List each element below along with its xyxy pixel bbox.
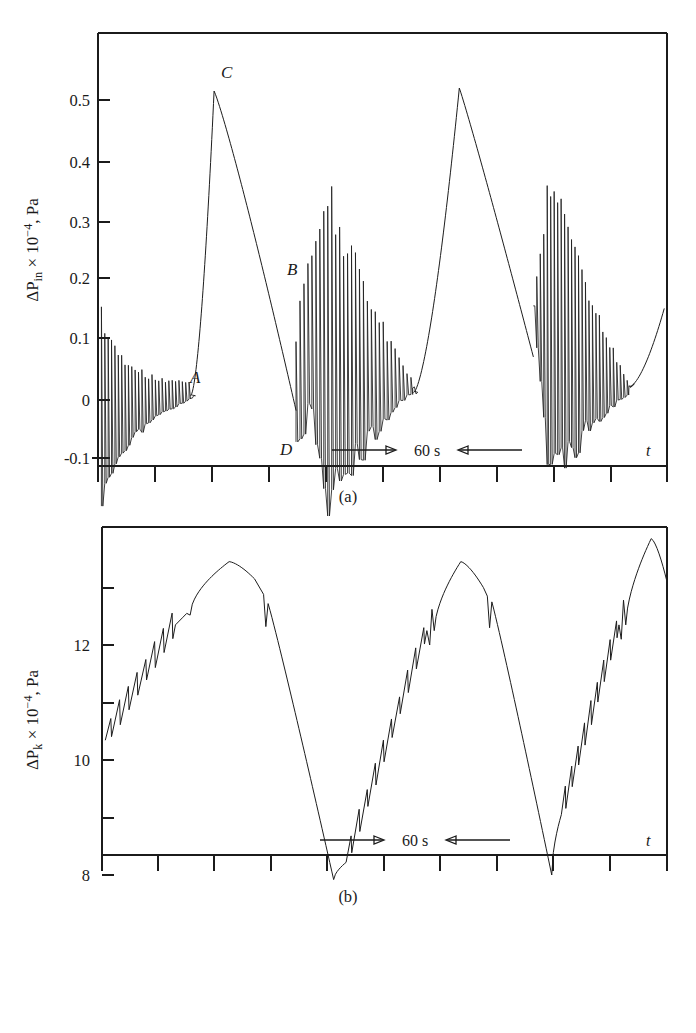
scale-bar-a: 60 s (332, 442, 522, 459)
annotation-label-C: C (221, 63, 233, 82)
y-tick-label: 0.3 (69, 213, 90, 232)
y-tick-label: 0.2 (69, 269, 90, 288)
chart-panel-b: ΔPk × 10−4, Pa 12 10 8 (0, 500, 696, 1033)
panel-caption-b: (b) (338, 887, 357, 906)
x-axis-label-a: t (646, 442, 651, 459)
y-tick-label: 0 (82, 391, 90, 410)
annotation-label-A: A (189, 368, 201, 387)
data-trace-b (105, 539, 667, 880)
y-tick-labels-a: 0.5 0.4 0.3 0.2 0.1 0 -0.1 (64, 91, 90, 468)
figure-container: ΔPin × 10−4, Pa 0.5 0.4 0.3 0.2 0.1 0 -0… (0, 0, 696, 1033)
y-tick-label: 0.5 (69, 91, 90, 110)
svg-text:ΔPk × 10−4, Pa: ΔPk × 10−4, Pa (21, 669, 45, 770)
svg-text:ΔPin × 10−4, Pa: ΔPin × 10−4, Pa (21, 198, 45, 302)
annotation-label-D: D (279, 440, 293, 459)
chart-b-svg: ΔPk × 10−4, Pa 12 10 8 (0, 500, 696, 1033)
y-tick-label: 12 (74, 636, 91, 655)
y-axis-title-a: ΔPin × 10−4, Pa (21, 198, 45, 302)
x-axis-label-b: t (646, 832, 651, 849)
y-tick-labels-b: 12 10 8 (74, 636, 91, 885)
scale-bar-label: 60 s (402, 832, 428, 849)
y-tick-label: -0.1 (64, 449, 90, 468)
x-ticks-a (98, 466, 667, 482)
y-tick-label: 0.1 (69, 329, 90, 348)
y-axis-title-b: ΔPk × 10−4, Pa (21, 669, 45, 770)
y-tick-label: 0.4 (69, 153, 90, 172)
chart-a-svg: ΔPin × 10−4, Pa 0.5 0.4 0.3 0.2 0.1 0 -0… (0, 0, 696, 516)
annotation-label-B: B (287, 260, 298, 279)
chart-panel-a: ΔPin × 10−4, Pa 0.5 0.4 0.3 0.2 0.1 0 -0… (0, 0, 696, 516)
y-tick-label: 10 (74, 751, 91, 770)
y-tick-label: 8 (82, 866, 90, 885)
scale-bar-label: 60 s (414, 442, 440, 459)
x-ticks-b (102, 855, 667, 871)
data-trace-a (101, 88, 664, 516)
plot-frame-b (102, 527, 667, 855)
scale-bar-b: 60 s (320, 832, 510, 849)
